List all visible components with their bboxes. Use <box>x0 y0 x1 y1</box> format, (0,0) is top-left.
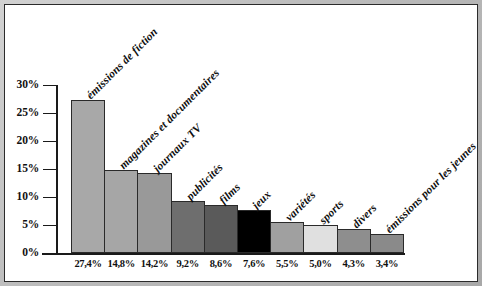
y-axis-tick-label: 10% <box>5 190 39 202</box>
bar <box>171 201 205 253</box>
y-axis-tick-label: 20% <box>5 134 39 146</box>
chart-figure: 0%5%10%15%20%25%30%27,4%émissions de fic… <box>0 0 482 286</box>
y-axis-tick <box>43 197 56 198</box>
bar <box>71 100 105 253</box>
y-axis-tick <box>43 85 56 86</box>
bar <box>237 210 271 253</box>
bar <box>370 234 404 253</box>
y-axis-line <box>56 85 58 254</box>
y-axis-tick-label: 30% <box>5 78 39 90</box>
y-axis-tick-label: 15% <box>5 162 39 174</box>
bar-category-label: émissions de fiction <box>84 25 160 101</box>
y-axis-tick <box>43 141 56 142</box>
y-axis-tick-label: 25% <box>5 106 39 118</box>
x-axis-baseline <box>42 253 405 255</box>
bar-category-label: divers <box>350 201 379 230</box>
bar <box>303 225 337 253</box>
bar-category-label: jeux <box>250 188 273 211</box>
bar-category-label: films <box>217 181 243 207</box>
y-axis-tick <box>43 169 56 170</box>
bar <box>104 170 138 253</box>
bar <box>204 205 238 253</box>
y-axis-tick <box>43 225 56 226</box>
bar-chart-plot-area: 0%5%10%15%20%25%30%27,4%émissions de fic… <box>5 5 478 282</box>
y-axis-tick <box>43 253 56 254</box>
y-axis-tick-label: 0% <box>5 246 39 258</box>
bar <box>270 222 304 253</box>
bar-category-label: variétés <box>283 189 318 224</box>
bar <box>137 173 171 253</box>
bar-category-label: émissions pour les jeunes <box>383 140 478 235</box>
chart-plate: 0%5%10%15%20%25%30%27,4%émissions de fic… <box>4 4 478 282</box>
bar-category-label: sports <box>316 197 345 226</box>
y-axis-tick <box>43 113 56 114</box>
bar-value-label: 3,4% <box>366 258 408 269</box>
y-axis-tick-label: 5% <box>5 218 39 230</box>
bar <box>337 229 371 253</box>
